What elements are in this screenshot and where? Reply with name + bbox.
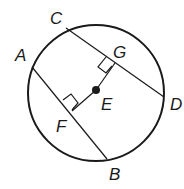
label-b: B bbox=[109, 165, 120, 184]
chord-ab bbox=[32, 67, 107, 159]
center-point-e bbox=[92, 86, 100, 94]
label-c: C bbox=[50, 9, 63, 28]
chord-cd bbox=[66, 28, 164, 97]
circle-diagram: C A G D E F B bbox=[0, 0, 184, 189]
label-d: D bbox=[170, 95, 182, 114]
label-f: F bbox=[56, 117, 68, 136]
label-g: G bbox=[113, 43, 126, 62]
label-e: E bbox=[101, 95, 113, 114]
label-a: A bbox=[14, 46, 26, 65]
